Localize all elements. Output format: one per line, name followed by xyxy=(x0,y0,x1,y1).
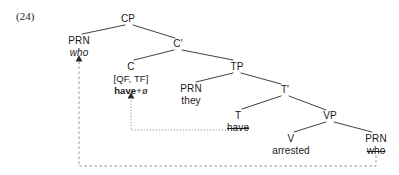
head-movement-have-line xyxy=(131,99,226,130)
complex-head-bold-part: have xyxy=(114,85,136,96)
node-c: C xyxy=(127,62,134,72)
branch-tbar-t xyxy=(242,96,281,109)
branch-vp-v xyxy=(294,122,326,132)
branch-tp-tbar xyxy=(241,73,281,84)
node-t-bar: T' xyxy=(281,85,289,95)
complex-head-have-plus-zero: have+ø xyxy=(114,86,148,96)
branch-cbar-tp xyxy=(182,50,233,60)
terminal-they: they xyxy=(181,96,200,106)
terminal-who-spec: who xyxy=(70,48,89,58)
node-prn-subj: PRN xyxy=(180,84,201,94)
node-vp: VP xyxy=(323,111,337,121)
branch-tp-prn xyxy=(196,73,233,82)
syntax-tree-figure: (24) CP PRN C' C TP PRN T' T VP V PRN wh xyxy=(0,0,399,175)
node-prn-spec: PRN xyxy=(68,36,89,46)
branch-vp-prn xyxy=(334,122,372,132)
branch-cp-prn xyxy=(82,25,125,34)
terminal-who-obj: who xyxy=(367,146,386,156)
node-c-bar: C' xyxy=(173,39,182,49)
terminal-arrested: arrested xyxy=(272,146,310,156)
branch-cp-cbar xyxy=(133,25,175,38)
node-tp: TP xyxy=(231,62,244,72)
node-cp: CP xyxy=(121,14,135,24)
node-v: V xyxy=(288,134,295,144)
node-t: T xyxy=(235,111,241,121)
branch-tbar-vp xyxy=(289,96,326,110)
complex-head-affix-part: +ø xyxy=(136,85,148,96)
terminal-have-t: have xyxy=(227,123,249,133)
branch-cbar-c xyxy=(134,50,174,60)
c-features: [QF, TF] xyxy=(114,74,149,84)
node-prn-obj: PRN xyxy=(365,134,386,144)
